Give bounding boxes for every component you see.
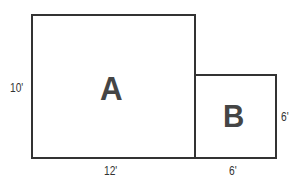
region-a-label: A [100,71,123,105]
region-b-width-dimension: 6' [229,165,237,177]
region-a-height-dimension: 10' [10,82,23,94]
region-b-label: B [223,100,244,132]
region-a-width-dimension: 12' [104,165,117,177]
region-b-height-dimension: 6' [281,111,289,123]
area-diagram: A B 10' 12' 6' 6' [0,0,300,187]
